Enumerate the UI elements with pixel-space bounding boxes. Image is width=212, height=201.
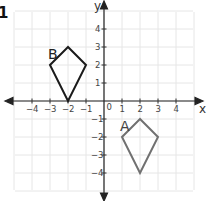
y-tick-label: −2 bbox=[91, 132, 104, 142]
y-tick-label: −4 bbox=[91, 168, 104, 178]
y-tick-label: 2 bbox=[95, 60, 100, 70]
origin-label: 0 bbox=[107, 102, 112, 112]
x-tick-label: 3 bbox=[156, 104, 161, 114]
x-axis-label: x bbox=[199, 102, 206, 116]
x-tick-label: 1 bbox=[120, 104, 125, 114]
y-tick-label: 3 bbox=[95, 42, 100, 52]
x-tick-label: −2 bbox=[62, 104, 75, 114]
x-tick-label: −4 bbox=[26, 104, 39, 114]
shape-label-a: A bbox=[120, 118, 130, 134]
y-tick-label: −3 bbox=[91, 150, 104, 160]
x-tick-label: 4 bbox=[174, 104, 179, 114]
axes bbox=[5, 1, 203, 201]
shape-label-b: B bbox=[48, 46, 58, 62]
y-tick-label: −1 bbox=[91, 114, 104, 124]
x-axis-left-arrow-icon bbox=[5, 98, 13, 105]
coordinate-plane: −4−3−2−112344321−1−2−3−4 x y 0 BA bbox=[0, 0, 212, 201]
x-tick-label: 2 bbox=[138, 104, 143, 114]
y-axis-down-arrow-icon bbox=[101, 193, 108, 201]
x-tick-label: −3 bbox=[44, 104, 57, 114]
y-axis-label: y bbox=[94, 0, 101, 13]
y-tick-label: 1 bbox=[95, 78, 100, 88]
y-tick-label: 4 bbox=[95, 24, 100, 34]
y-axis-up-arrow-icon bbox=[101, 1, 108, 9]
x-tick-label: −1 bbox=[80, 104, 93, 114]
